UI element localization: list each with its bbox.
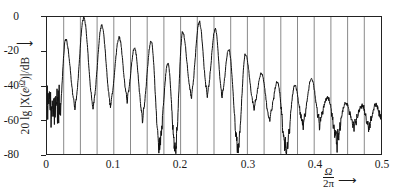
y-tick-label-0: 0: [0, 11, 19, 23]
spectrum-curve: [47, 17, 381, 154]
y-axis-label-text: 20 lg |X(ejΩ)|/dB: [19, 57, 31, 135]
x-tick-label-0.5: 0.5: [365, 159, 399, 171]
x-tick-label-0: 0: [29, 159, 63, 171]
x-tick-label-0.1: 0.1: [96, 159, 130, 171]
y-axis-label: 20 lg |X(ejΩ)|/dB⟶: [18, 15, 31, 155]
x-axis-label-fraction: Ω 2π: [323, 166, 334, 189]
plot-area: [46, 16, 382, 155]
x-tick-label-0.3: 0.3: [231, 159, 265, 171]
x-axis-label-numerator: Ω: [323, 166, 334, 177]
y-tick-label-80: -80: [0, 149, 19, 161]
y-tick-mark-80: [41, 155, 46, 156]
y-tick-label-40: -40: [0, 80, 19, 92]
y-tick-label-20: -20: [0, 45, 19, 57]
x-axis-label-denominator: 2π: [323, 177, 334, 189]
x-axis-label: Ω 2π ⟶: [323, 166, 357, 189]
x-tick-label-0.2: 0.2: [163, 159, 197, 171]
y-tick-label-60: -60: [0, 115, 19, 127]
x-axis-arrow-icon: ⟶: [338, 174, 357, 187]
figure-root: 20 lg |X(ejΩ)|/dB⟶ 0 -20 -40 -60 -80 0 0…: [0, 0, 407, 194]
